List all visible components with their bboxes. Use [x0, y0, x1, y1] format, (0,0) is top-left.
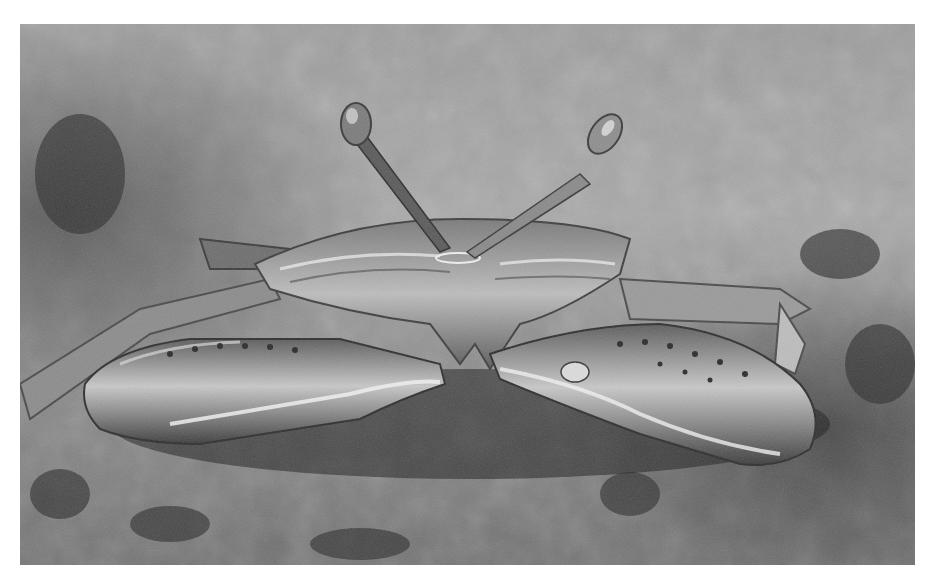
crab-photo [20, 24, 915, 565]
crab-photo-illustration [20, 24, 915, 565]
grain-overlay [20, 24, 915, 565]
